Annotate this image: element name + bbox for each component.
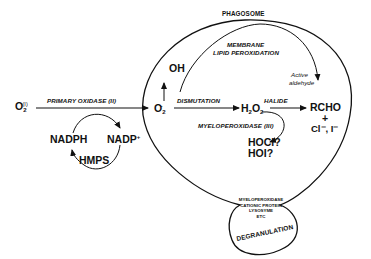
plus-sign: + (322, 113, 328, 124)
superoxide-species: O2- (154, 103, 163, 114)
halide-label: HALIDE (264, 98, 288, 104)
phagosome-label: PHAGOSOME (222, 11, 265, 17)
oh-species: OH (169, 63, 185, 74)
rcho-species: RCHO (310, 102, 341, 113)
nadp-species: NADP+ (107, 134, 140, 145)
halide-ions-species: Cl⁻, I⁻ (311, 124, 338, 134)
oxygen-species: O2(I) (15, 101, 28, 112)
hydrogen-peroxide-species: H2O2 (241, 103, 263, 114)
granule-item: MYELOPEROXIDASE (232, 197, 290, 203)
granule-item: ETC (232, 214, 290, 220)
phagosome-pathway-diagram: PHAGOSOME MEMBRANE LIPID PEROXIDATION Ac… (0, 0, 371, 259)
hocl-species: HOCl? (248, 137, 281, 148)
primary-oxidase-label: PRIMARY OXIDASE (II) (47, 98, 116, 104)
granule-contents: MYELOPEROXIDASE CATIONIC PROTEIN LYSOSYM… (232, 197, 290, 219)
hmps-species: HMPS (79, 155, 109, 166)
aldehyde-label: aldehyde (289, 80, 314, 86)
nadph-species: NADPH (50, 134, 87, 145)
active-label: Active (291, 72, 308, 78)
dismutation-label: DISMUTATION (177, 98, 220, 104)
lipid-peroxidation-label: LIPID PEROXIDATION (213, 50, 279, 56)
nadph-to-nadp-arc (73, 114, 120, 133)
membrane-label: MEMBRANE (227, 42, 264, 48)
hoi-species: HOI? (248, 148, 273, 159)
myeloperoxidase-label: MYELOPEROXIDASE (III) (198, 123, 274, 129)
